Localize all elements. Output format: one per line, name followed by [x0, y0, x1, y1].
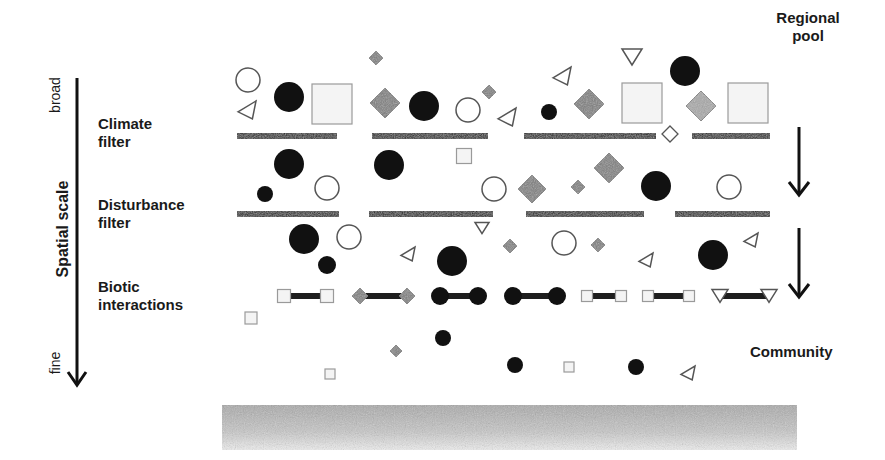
square-icon	[684, 291, 695, 302]
black-circle-icon	[670, 56, 700, 86]
open-diamond-icon	[662, 126, 678, 142]
interaction-link	[648, 293, 689, 299]
filter-bar-segment	[692, 133, 770, 139]
square-icon	[622, 83, 662, 123]
black-circle-icon	[641, 171, 671, 201]
gray-diamond-icon	[352, 288, 368, 304]
black-circle-icon	[409, 91, 439, 121]
square-icon	[321, 290, 334, 303]
open-triangle-icon	[681, 366, 695, 380]
black-circle-icon	[469, 287, 487, 305]
gray-diamond-icon	[370, 88, 400, 118]
open-circle-icon	[236, 68, 260, 92]
flow-arrows	[789, 127, 809, 297]
filter-bar-segment	[675, 211, 770, 217]
filter-bars	[237, 133, 770, 217]
square-icon	[582, 291, 593, 302]
open-circle-icon	[456, 98, 480, 122]
community-assembly-diagram	[0, 0, 885, 460]
ground-band	[222, 405, 797, 450]
gray-diamond-icon	[518, 175, 546, 203]
square-icon	[312, 84, 352, 124]
square-icon	[616, 291, 627, 302]
black-circle-icon	[548, 287, 566, 305]
open-triangle-icon	[238, 101, 256, 119]
square-icon	[457, 149, 472, 164]
open-circle-icon	[337, 225, 361, 249]
black-circle-icon	[274, 82, 304, 112]
down-triangle-icon	[622, 49, 642, 65]
open-circle-icon	[717, 175, 741, 199]
open-triangle-icon	[553, 67, 571, 85]
square-icon	[245, 312, 257, 324]
down-triangle-icon	[475, 222, 489, 233]
filter-bar-segment	[524, 133, 656, 139]
gray-diamond-icon	[686, 91, 716, 121]
interaction-link	[720, 293, 769, 299]
gray-diamond-icon	[390, 345, 402, 357]
filter-bar-segment	[526, 211, 644, 217]
black-circle-icon	[257, 186, 273, 202]
gray-diamond-icon	[503, 239, 517, 253]
interaction-pairs	[278, 287, 778, 305]
gray-diamond-icon	[399, 288, 415, 304]
black-circle-icon	[507, 357, 523, 373]
black-circle-icon	[698, 240, 728, 270]
filter-bar-segment	[369, 211, 493, 217]
black-circle-icon	[431, 287, 449, 305]
square-icon	[278, 290, 291, 303]
square-icon	[643, 291, 654, 302]
gray-diamond-icon	[574, 89, 604, 119]
open-triangle-icon	[401, 247, 415, 261]
filter-bar-segment	[372, 133, 488, 139]
open-circle-icon	[482, 177, 506, 201]
gray-diamond-icon	[594, 153, 624, 183]
open-triangle-icon	[639, 253, 653, 267]
black-circle-icon	[435, 330, 451, 346]
filter-bar-segment	[237, 211, 339, 217]
square-icon	[728, 83, 768, 123]
open-triangle-icon	[498, 108, 516, 126]
open-circle-icon	[315, 176, 339, 200]
open-triangle-icon	[744, 233, 758, 247]
gray-diamond-icon	[571, 180, 585, 194]
black-circle-icon	[289, 224, 319, 254]
square-icon	[564, 362, 574, 372]
gray-diamond-icon	[591, 238, 605, 252]
black-circle-icon	[437, 246, 467, 276]
axis-arrow	[68, 78, 86, 385]
open-circle-icon	[552, 231, 576, 255]
black-circle-icon	[374, 150, 404, 180]
down-arrow-icon	[789, 127, 809, 195]
gray-diamond-icon	[369, 51, 383, 65]
black-circle-icon	[504, 287, 522, 305]
black-circle-icon	[318, 256, 336, 274]
black-circle-icon	[541, 104, 557, 120]
gray-diamond-icon	[482, 85, 496, 99]
black-circle-icon	[274, 149, 304, 179]
filter-bar-segment	[237, 133, 337, 139]
square-icon	[325, 369, 335, 379]
down-arrow-icon	[789, 228, 809, 297]
black-circle-icon	[628, 359, 644, 375]
